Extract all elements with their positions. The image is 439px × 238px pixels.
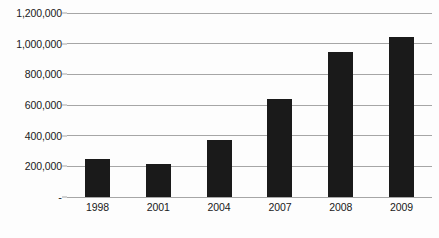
bar-2001 [146,164,171,197]
x-tick-label-1998: 1998 [86,201,109,213]
gridline-400000 [67,135,432,136]
x-tick-label-2009: 2009 [390,201,413,213]
gridline-0 [67,197,432,198]
y-tick-label: 1,000,000 [16,38,62,50]
y-tick-label: 400,000 [25,130,62,142]
x-tick-label-2001: 2001 [147,201,170,213]
gridline-600000 [67,105,432,106]
y-tick-label: 1,200,000 [16,7,62,19]
bar-chart: -200,000400,000600,000800,0001,000,0001,… [0,0,439,238]
gridline-1200000 [67,13,432,14]
plot-area [67,13,432,197]
bar-2004 [207,140,232,197]
bar-2007 [267,99,292,197]
gridline-1000000 [67,43,432,44]
x-tick-label-2007: 2007 [268,201,291,213]
x-tick-label-2008: 2008 [329,201,352,213]
y-tick-label: 200,000 [25,160,62,172]
gridline-200000 [67,166,432,167]
bar-1998 [85,159,110,197]
x-tick-label-2004: 2004 [208,201,231,213]
x-axis: 199820012004200720082009 [67,201,432,221]
y-tick-label: 800,000 [25,68,62,80]
y-tick-label: 600,000 [25,99,62,111]
y-axis: -200,000400,000600,000800,0001,000,0001,… [0,13,62,197]
bar-2009 [389,37,414,197]
bar-2008 [328,52,353,197]
gridline-800000 [67,74,432,75]
